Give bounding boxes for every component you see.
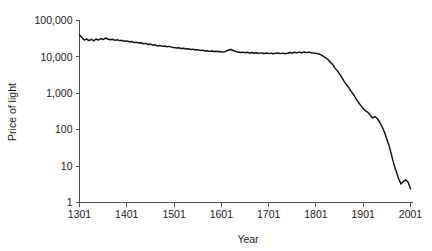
y-tick-label-1: 1 (67, 196, 73, 208)
x-tick-label-1601: 1601 (210, 208, 234, 220)
x-tick-label-1401: 1401 (115, 208, 139, 220)
y-tick-label-1,000: 1,000 (46, 87, 72, 99)
x-tick-label-1301: 1301 (68, 208, 92, 220)
y-axis-title: Price of light (6, 83, 18, 141)
price-of-light-chart: 1101001,00010,000100,000 130114011501160… (0, 0, 432, 251)
x-axis-title: Year (237, 233, 259, 245)
x-tick-label-2001: 2001 (399, 208, 423, 220)
y-tick-labels: 1101001,00010,000100,000 (35, 14, 73, 208)
x-tick-label-1501: 1501 (162, 208, 186, 220)
x-tick-label-1801: 1801 (304, 208, 328, 220)
y-tick-label-10: 10 (61, 160, 73, 172)
y-tick-label-100,000: 100,000 (35, 14, 73, 26)
chart-plot-area: 1101001,00010,000100,000 130114011501160… (0, 0, 432, 251)
x-tick-label-1701: 1701 (257, 208, 281, 220)
y-tick-label-100: 100 (55, 123, 73, 135)
ticks-group (76, 21, 411, 207)
x-tick-labels: 13011401150116011701180119012001 (68, 208, 423, 220)
series-line-price-of-light (80, 35, 411, 189)
axes-group (80, 21, 413, 203)
x-tick-label-1901: 1901 (352, 208, 376, 220)
y-tick-label-10,000: 10,000 (40, 51, 72, 63)
